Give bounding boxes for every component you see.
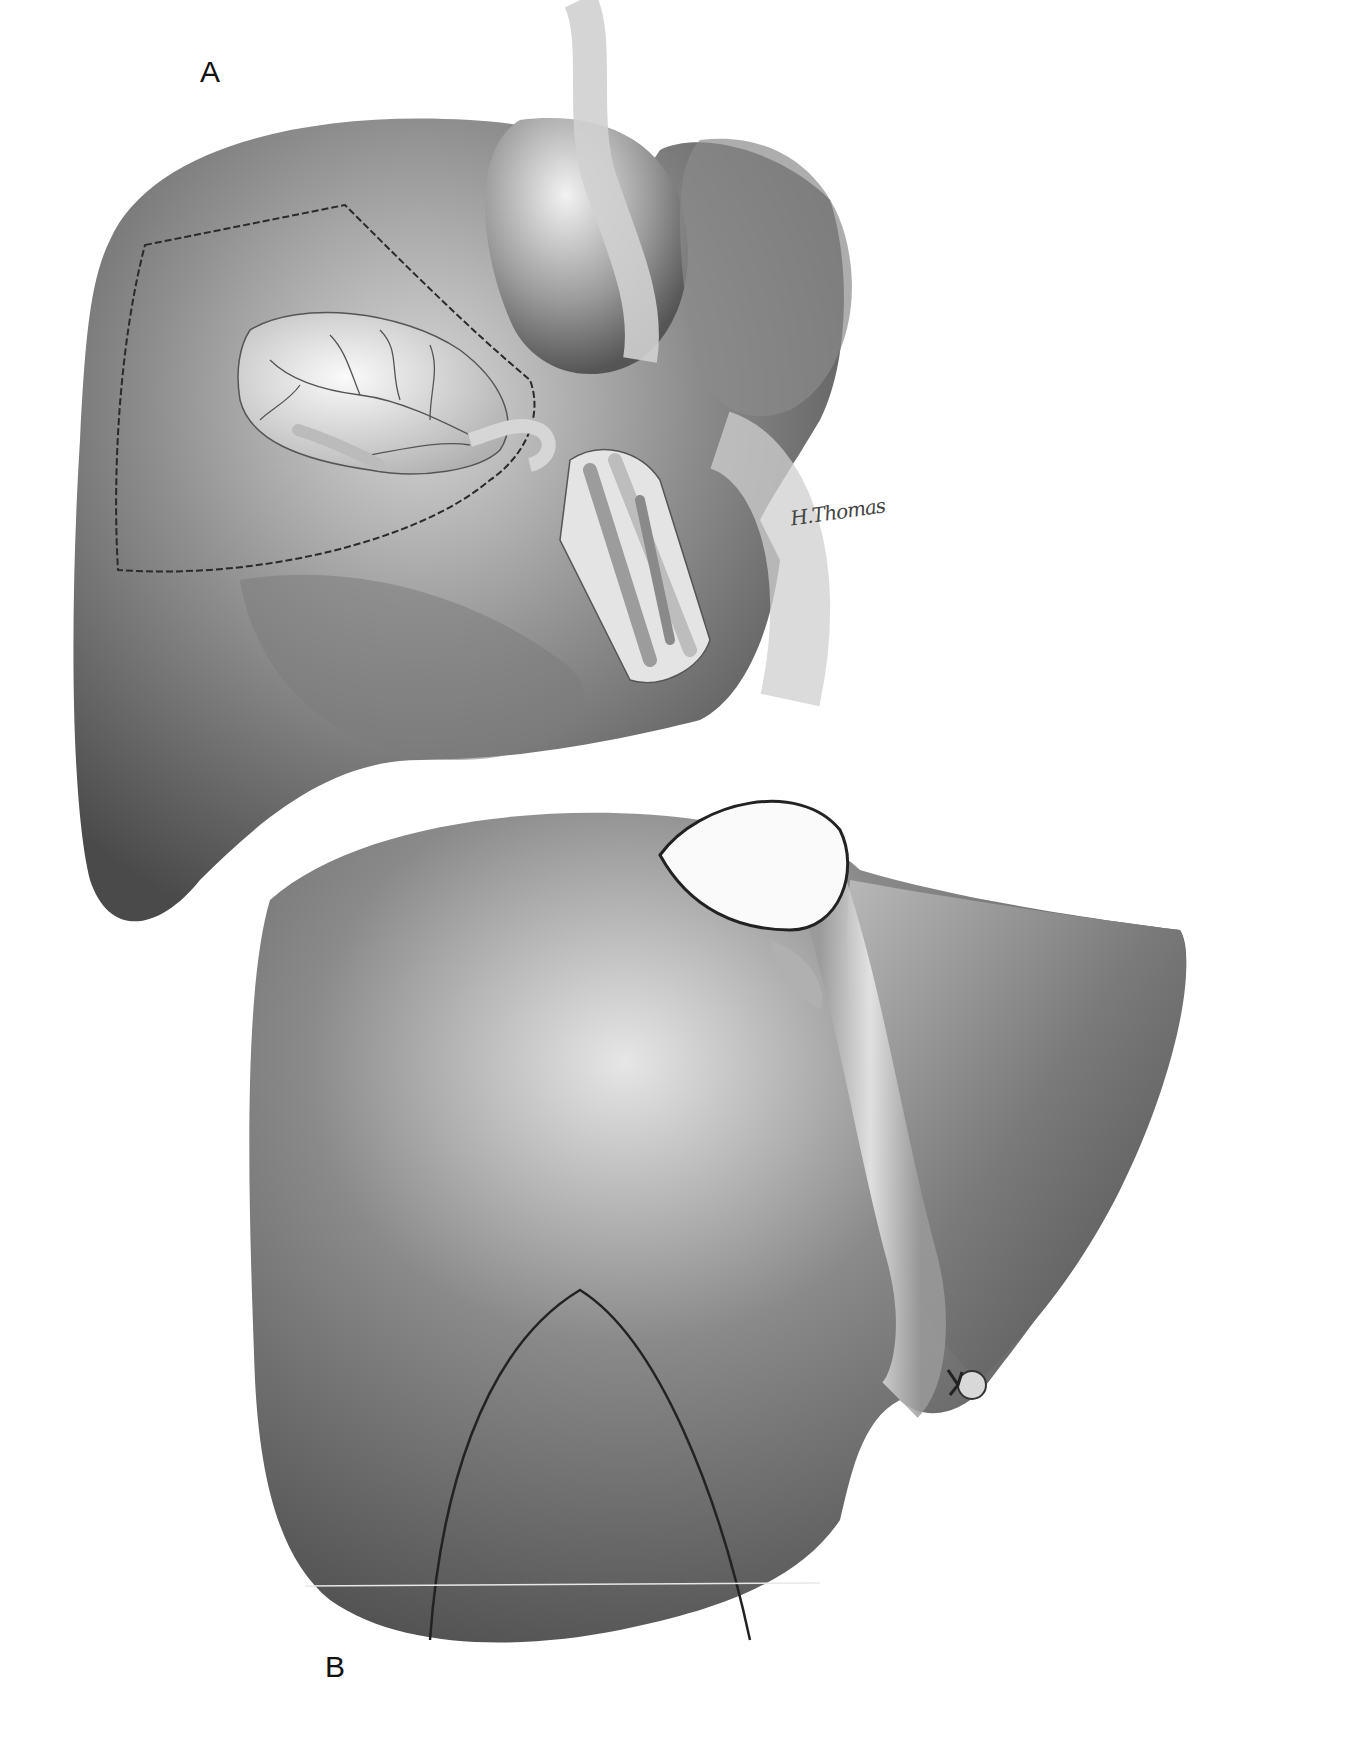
panel-b-liver bbox=[249, 801, 1186, 1642]
panel-a-liver bbox=[73, 0, 852, 921]
panel-label-a: A bbox=[200, 55, 220, 89]
liver-illustration bbox=[0, 0, 1350, 1750]
panel-label-b: B bbox=[325, 1650, 345, 1684]
